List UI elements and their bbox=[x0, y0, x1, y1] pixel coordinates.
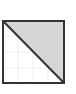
diagonal-split-square-graphic bbox=[2, 20, 65, 84]
diagonal-split-square-icon bbox=[2, 20, 65, 84]
